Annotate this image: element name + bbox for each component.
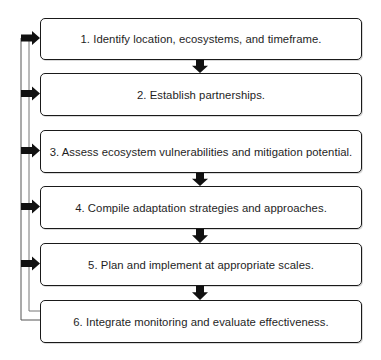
step-label: 2. Establish partnerships. <box>137 89 265 101</box>
step-box-5: 5. Plan and implement at appropriate sca… <box>40 243 362 286</box>
feedback-arrows <box>21 31 40 271</box>
step-label: 4. Compile adaptation strategies and app… <box>75 202 327 214</box>
arrow-down-icon <box>192 173 208 186</box>
step-box-1: 1. Identify location, ecosystems, and ti… <box>40 18 362 60</box>
step-label: 5. Plan and implement at appropriate sca… <box>88 259 314 271</box>
step-box-4: 4. Compile adaptation strategies and app… <box>40 186 362 229</box>
step-box-3: 3. Assess ecosystem vulnerabilities and … <box>40 130 362 173</box>
step-label: 3. Assess ecosystem vulnerabilities and … <box>50 146 353 158</box>
arrow-right-icon <box>21 257 40 271</box>
feedback-line-outer <box>21 38 40 320</box>
arrow-right-icon <box>21 200 40 214</box>
feedback-line-inner <box>29 38 40 311</box>
arrow-down-icon <box>192 229 208 243</box>
arrow-down-icon <box>192 286 208 300</box>
arrow-right-icon <box>21 87 40 101</box>
arrow-right-icon <box>21 31 40 45</box>
arrow-right-icon <box>21 144 40 158</box>
arrow-down-icon <box>192 60 208 73</box>
step-box-2: 2. Establish partnerships. <box>40 73 362 116</box>
step-label: 1. Identify location, ecosystems, and ti… <box>81 33 322 45</box>
step-box-6: 6. Integrate monitoring and evaluate eff… <box>40 300 362 343</box>
adaptation-process-flowchart: 1. Identify location, ecosystems, and ti… <box>0 0 381 360</box>
step-label: 6. Integrate monitoring and evaluate eff… <box>73 316 328 328</box>
